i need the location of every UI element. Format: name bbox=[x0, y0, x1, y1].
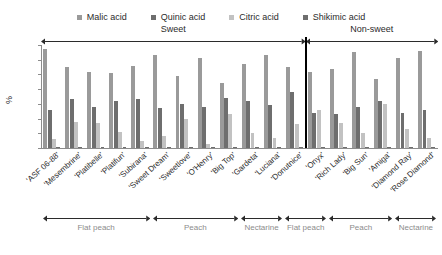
bottom-span-arrow-icon bbox=[153, 214, 238, 223]
bar bbox=[140, 141, 144, 148]
bar-group bbox=[87, 45, 105, 148]
bottom-span-label: Flat peach bbox=[285, 223, 326, 233]
bar-group bbox=[176, 45, 194, 148]
legend-swatch-icon bbox=[303, 15, 308, 20]
legend-item-quinic-acid[interactable]: Quinic acid bbox=[151, 13, 206, 22]
bar bbox=[65, 67, 69, 148]
bottom-span-arrow-icon bbox=[329, 214, 392, 223]
bar bbox=[423, 110, 427, 148]
bar bbox=[43, 49, 47, 148]
y-tick-mark bbox=[38, 148, 41, 149]
bar bbox=[224, 98, 228, 148]
bar bbox=[312, 113, 316, 148]
y-tick-mark bbox=[38, 104, 41, 105]
bar-group bbox=[65, 45, 83, 148]
bar bbox=[211, 147, 215, 148]
bar-group bbox=[374, 45, 392, 148]
bar bbox=[334, 114, 338, 148]
legend-label: Shikimic acid bbox=[313, 13, 366, 22]
bar bbox=[123, 147, 127, 148]
bar bbox=[242, 64, 246, 148]
legend-swatch-icon bbox=[151, 15, 156, 20]
legend-label: Quinic acid bbox=[161, 13, 206, 22]
bar-group bbox=[330, 45, 348, 148]
bar-group bbox=[109, 45, 127, 148]
bar bbox=[268, 105, 272, 148]
bar bbox=[396, 58, 400, 148]
legend-swatch-icon bbox=[229, 15, 234, 20]
bar bbox=[383, 104, 387, 148]
bar-series-container bbox=[41, 45, 438, 148]
bar bbox=[78, 147, 82, 148]
y-axis-label: % bbox=[4, 90, 14, 104]
chart-legend: Malic acidQuinic acidCitric acidShikimic… bbox=[0, 10, 442, 24]
bar bbox=[167, 147, 171, 148]
bar bbox=[273, 138, 277, 148]
bar bbox=[409, 147, 413, 148]
bar bbox=[339, 123, 343, 148]
bar bbox=[405, 129, 409, 148]
bottom-span-label: Peach bbox=[329, 223, 392, 233]
bar bbox=[48, 110, 52, 148]
bar bbox=[52, 139, 56, 148]
bar bbox=[290, 92, 294, 148]
bar-group bbox=[153, 45, 171, 148]
bar bbox=[299, 147, 303, 148]
bottom-span-label: Nectarine bbox=[395, 223, 436, 233]
bar bbox=[136, 99, 140, 148]
bar bbox=[374, 79, 378, 148]
bar-group bbox=[242, 45, 260, 148]
bar bbox=[220, 83, 224, 148]
bar bbox=[74, 122, 78, 148]
bar-group bbox=[418, 45, 436, 148]
x-axis-labels: 'ASF 06-88''Mesembrine''Platibelle''Plat… bbox=[0, 151, 442, 206]
plot-area bbox=[41, 45, 438, 148]
bottom-span-annotations: Flat peachPeachNectarineFlat peachPeachN… bbox=[0, 214, 442, 238]
bar bbox=[176, 76, 180, 148]
bar bbox=[427, 138, 431, 148]
bar bbox=[361, 133, 365, 148]
bar bbox=[255, 147, 259, 148]
bottom-span-label: Nectarine bbox=[241, 223, 282, 233]
legend-item-shikimic-acid[interactable]: Shikimic acid bbox=[303, 13, 366, 22]
bar bbox=[431, 147, 435, 148]
bar bbox=[101, 147, 105, 148]
bar bbox=[198, 58, 202, 148]
bar bbox=[264, 55, 268, 148]
bar bbox=[158, 108, 162, 148]
bar bbox=[189, 147, 193, 148]
top-span-label: Non-sweet bbox=[306, 24, 438, 34]
bar bbox=[114, 101, 118, 148]
bottom-span-arrow-icon bbox=[43, 214, 150, 223]
chart-figure: Malic acidQuinic acidCitric acidShikimic… bbox=[0, 0, 442, 255]
bar-group bbox=[198, 45, 216, 148]
bar bbox=[286, 67, 290, 148]
bar bbox=[277, 147, 281, 148]
bar bbox=[343, 147, 347, 148]
bar bbox=[295, 124, 299, 148]
legend-swatch-icon bbox=[77, 15, 82, 20]
bar bbox=[131, 66, 135, 148]
y-tick-mark bbox=[38, 60, 41, 61]
bar bbox=[352, 52, 356, 148]
bar bbox=[246, 101, 250, 148]
bar bbox=[401, 113, 405, 148]
bar bbox=[162, 136, 166, 148]
y-tick-mark bbox=[38, 89, 41, 90]
bottom-span-arrow-icon bbox=[285, 214, 326, 223]
bar bbox=[184, 119, 188, 148]
bar-group bbox=[286, 45, 304, 148]
bar bbox=[308, 72, 312, 149]
bar bbox=[206, 144, 210, 148]
bottom-span-arrow-icon bbox=[241, 214, 282, 223]
top-span-label: Sweet bbox=[41, 24, 306, 34]
bar bbox=[153, 55, 157, 148]
bar bbox=[365, 147, 369, 148]
x-axis-line bbox=[41, 148, 438, 149]
legend-item-citric-acid[interactable]: Citric acid bbox=[229, 13, 279, 22]
y-tick-mark bbox=[38, 119, 41, 120]
bar bbox=[87, 72, 91, 149]
legend-item-malic-acid[interactable]: Malic acid bbox=[77, 13, 127, 22]
bar bbox=[378, 101, 382, 148]
bar-group bbox=[220, 45, 238, 148]
